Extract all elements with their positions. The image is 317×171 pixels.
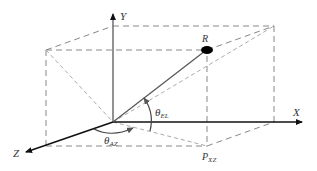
azimuth-arc (94, 128, 133, 133)
point-r-marker (201, 46, 213, 54)
point-r-label: R (201, 33, 208, 44)
z-axis-label: Z (13, 147, 20, 159)
azimuth-angle-label: θAZ (104, 134, 118, 148)
projection-label: PXZ (201, 151, 216, 164)
x-axis-label: X (292, 106, 301, 118)
elevation-angle-label: θEL (155, 106, 169, 120)
y-axis-label: Y (120, 10, 128, 22)
z-axis (26, 122, 113, 152)
coordinate-diagram: Y X Z R PXZ θEL θAZ (0, 0, 317, 171)
